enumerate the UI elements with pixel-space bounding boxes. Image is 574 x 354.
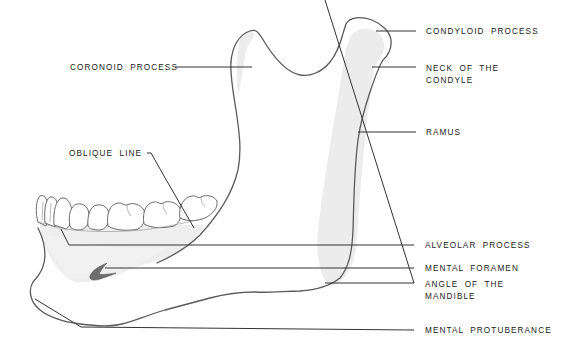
- label-mental-protuberance: MENTAL PROTUBERANCE: [425, 325, 552, 337]
- label-line: RAMUS: [426, 127, 461, 139]
- tooth-molar-1: [107, 203, 144, 230]
- label-line: CONDYLE: [426, 75, 499, 87]
- label-ramus: RAMUS: [426, 127, 461, 139]
- label-alveolar-process: ALVEOLAR PROCESS: [425, 240, 531, 252]
- label-mental-foramen: MENTAL FORAMEN: [425, 263, 519, 275]
- label-coronoid-process: CORONOID PROCESS: [70, 62, 178, 74]
- label-line: ANGLE OF THE: [425, 279, 504, 291]
- label-neck-of-condyle: NECK OF THE CONDYLE: [426, 63, 499, 86]
- tooth-molar-2: [143, 202, 180, 228]
- label-angle-of-mandible: ANGLE OF THE MANDIBLE: [425, 279, 504, 302]
- tooth-premolar-2: [88, 205, 109, 230]
- tooth-molar-3: [180, 196, 218, 221]
- tooth-premolar-1: [69, 204, 89, 230]
- label-condyloid-process: CONDYLOID PROCESS: [426, 26, 539, 38]
- label-line: MENTAL PROTUBERANCE: [425, 325, 552, 337]
- label-line: CORONOID PROCESS: [70, 62, 178, 74]
- label-line: ALVEOLAR PROCESS: [425, 240, 531, 252]
- label-line: MANDIBLE: [425, 291, 504, 303]
- label-line: NECK OF THE: [426, 63, 499, 75]
- label-line: MENTAL FORAMEN: [425, 263, 519, 275]
- label-line: OBLIQUE LINE: [69, 148, 142, 160]
- label-line: CONDYLOID PROCESS: [426, 26, 539, 38]
- label-oblique-line: OBLIQUE LINE: [69, 148, 142, 160]
